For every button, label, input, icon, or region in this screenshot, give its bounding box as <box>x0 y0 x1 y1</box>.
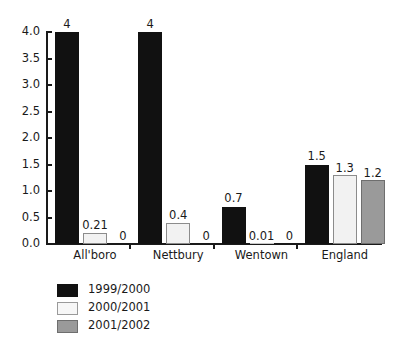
y-axis-tick-mark <box>47 164 52 166</box>
bar: 0.4 <box>166 223 190 244</box>
bar-chart: 0.00.51.01.52.02.53.03.54.040.21040.400.… <box>0 0 409 354</box>
y-axis-tick-mark <box>47 137 52 139</box>
y-axis-tick-mark <box>47 217 52 219</box>
y-axis-tick-mark <box>47 31 52 33</box>
bar-value-label: 0.21 <box>82 220 108 232</box>
bar: 1.5 <box>305 165 329 245</box>
x-axis-category-label: England <box>295 250 395 262</box>
bar-value-label: 0 <box>286 231 293 243</box>
y-axis-tick-label: 2.0 <box>22 132 47 144</box>
bar-value-label: 1.2 <box>364 168 382 180</box>
plot-area: 0.00.51.01.52.02.53.03.54.040.21040.400.… <box>47 32 380 244</box>
y-axis-tick-label: 4.0 <box>22 26 47 38</box>
y-axis-tick-mark <box>47 190 52 192</box>
bar-zero-marker: 0 <box>278 243 302 244</box>
y-axis-tick-mark <box>47 84 52 86</box>
x-axis-tick-mark <box>296 244 298 249</box>
y-axis-tick-mark <box>47 58 52 60</box>
y-axis-tick-label: 2.5 <box>22 106 47 118</box>
legend-label: 2001/2002 <box>88 320 150 332</box>
bar: 1.3 <box>333 175 357 244</box>
bar-zero-marker: 0.01 <box>250 243 274 244</box>
bar-value-label: 1.5 <box>308 151 326 163</box>
bar-value-label: 1.3 <box>336 163 354 175</box>
bar: 0.21 <box>83 233 107 244</box>
bar: 0.7 <box>222 207 246 244</box>
bar-value-label: 0 <box>203 231 210 243</box>
bar <box>250 243 274 244</box>
legend-item: 1999/2000 <box>57 281 237 299</box>
y-axis-tick-label: 0.5 <box>22 212 47 224</box>
bar-value-label: 0.4 <box>169 210 187 222</box>
legend-swatch <box>57 284 78 297</box>
y-axis-tick-mark <box>47 111 52 113</box>
legend-swatch <box>57 302 78 315</box>
chart-legend: 1999/20002000/20012001/2002 <box>57 281 237 335</box>
bar-value-label: 4 <box>147 19 154 31</box>
bar-zero-marker: 0 <box>194 243 218 244</box>
y-axis-tick-label: 0.0 <box>22 238 47 250</box>
legend-swatch <box>57 320 78 333</box>
legend-label: 1999/2000 <box>88 284 150 296</box>
legend-item: 2001/2002 <box>57 317 237 335</box>
bar: 1.2 <box>361 180 385 244</box>
x-axis-tick-mark <box>213 244 215 249</box>
bar-zero-marker: 0 <box>111 243 135 244</box>
bar: 4 <box>55 32 79 244</box>
bar-value-label: 4 <box>63 19 70 31</box>
bar-value-label: 0 <box>119 231 126 243</box>
y-axis-tick-label: 1.0 <box>22 185 47 197</box>
y-axis-tick-label: 3.5 <box>22 53 47 65</box>
bar-value-label: 0.7 <box>224 193 242 205</box>
x-axis-tick-mark <box>129 244 131 249</box>
legend-item: 2000/2001 <box>57 299 237 317</box>
bar: 4 <box>138 32 162 244</box>
y-axis-tick-label: 3.0 <box>22 79 47 91</box>
legend-label: 2000/2001 <box>88 302 150 314</box>
bar-value-label: 0.01 <box>249 231 275 243</box>
y-axis-tick-label: 1.5 <box>22 159 47 171</box>
